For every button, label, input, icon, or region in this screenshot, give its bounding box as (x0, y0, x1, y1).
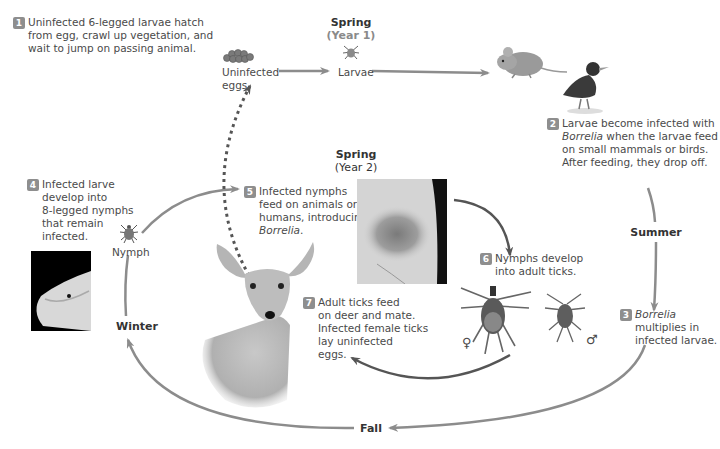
larva-tick-icon (342, 44, 360, 60)
arrow-to-summer (648, 188, 655, 222)
step-2-text: 2Larvae become infected with Borrelia wh… (547, 117, 718, 169)
step-number-badge: 1 (13, 17, 25, 29)
arrow-rash-to-step6 (454, 200, 510, 255)
rash-photo (357, 179, 447, 284)
arrow-step3-to-fall (390, 345, 645, 428)
step-7-text: 7Adult ticks feed on deer and mate. Infe… (303, 296, 428, 361)
egg-cluster-icon (222, 48, 256, 64)
finger-tick-photo (31, 251, 91, 331)
nymph-label: Nymph (112, 246, 150, 259)
step-3-text: 3Borrelia multiplies in infected larvae. (620, 308, 717, 347)
step-number-badge: 5 (244, 186, 256, 198)
step-5-text: 5Infected nymphs feed on animals or huma… (244, 185, 367, 237)
nymph-tick-icon (118, 222, 140, 244)
uninfected-eggs-label: Uninfected eggs (222, 66, 279, 92)
step-number-badge: 2 (547, 118, 559, 130)
season-spring-year1: Spring (Year 1) (326, 16, 376, 42)
step-number-badge: 6 (480, 253, 492, 265)
bird-icon (555, 55, 615, 115)
season-summer: Summer (630, 226, 682, 239)
arrow-winter-to-nymph (125, 255, 128, 316)
male-adult-tick-icon (543, 292, 587, 344)
female-symbol: ♀ (462, 336, 472, 349)
arrow-summer-to-step3 (654, 242, 656, 310)
male-symbol: ♂ (586, 333, 598, 346)
step-number-badge: 3 (620, 309, 632, 321)
step-number-badge: 7 (303, 297, 315, 309)
season-winter: Winter (116, 320, 156, 333)
arrow-larvae-to-host (372, 71, 488, 73)
step-1-text: 1Uninfected 6-legged larvae hatch from e… (13, 16, 213, 55)
season-fall: Fall (356, 422, 386, 435)
lyme-disease-tick-life-cycle: 1Uninfected 6-legged larvae hatch from e… (0, 0, 720, 449)
step-6-text: 6Nymphs develop into adult ticks. (480, 252, 583, 278)
larvae-label: Larvae (338, 66, 374, 79)
step-number-badge: 4 (27, 179, 39, 191)
season-spring-year2: Spring (Year 2) (330, 148, 382, 174)
